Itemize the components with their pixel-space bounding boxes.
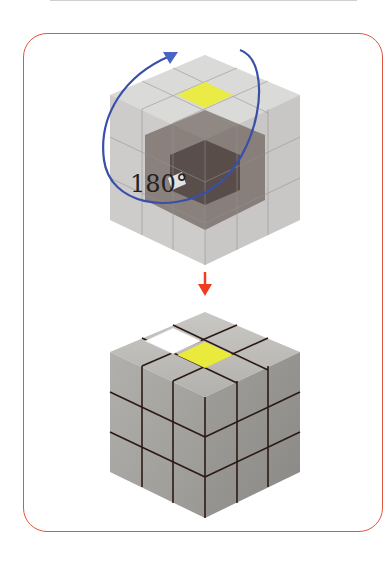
rotation-angle-label: 180° [130, 170, 188, 198]
transparent-cube [110, 55, 300, 265]
solid-cube [110, 312, 300, 518]
down-arrow-icon [198, 272, 212, 296]
